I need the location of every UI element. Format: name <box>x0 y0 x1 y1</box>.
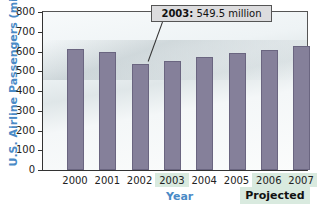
y-tick-label: 600 <box>9 47 35 57</box>
y-tick <box>38 91 43 92</box>
x-tick-label: 2003 <box>157 175 187 186</box>
bar-2002 <box>132 64 149 170</box>
projected-label: Projected <box>240 187 310 204</box>
y-tick <box>38 111 43 112</box>
y-tick <box>38 71 43 72</box>
bar-2005 <box>229 53 246 170</box>
bar-2007 <box>293 46 310 170</box>
y-tick-label: 100 <box>9 145 35 155</box>
y-tick-label: 400 <box>9 86 35 96</box>
y-tick <box>38 12 43 13</box>
y-tick <box>38 52 43 53</box>
x-tick-label: 2001 <box>92 175 122 186</box>
y-tick-label: 0 <box>9 165 35 175</box>
bar-2003 <box>164 61 181 170</box>
x-tick-label: 2002 <box>125 175 155 186</box>
x-tick-label: 2005 <box>222 175 252 186</box>
y-tick <box>38 150 43 151</box>
y-tick-label: 700 <box>9 27 35 37</box>
x-axis-title: Year <box>166 190 193 203</box>
y-tick-label: 200 <box>9 126 35 136</box>
annotation-callout-2003: 2003: 549.5 million <box>151 5 272 22</box>
bar-2006 <box>261 50 278 170</box>
y-tick-label: 500 <box>9 66 35 76</box>
bar-2001 <box>99 52 116 171</box>
y-tick <box>38 170 43 171</box>
y-tick <box>38 32 43 33</box>
plot-area: 0100200300400500600700800 <box>42 11 308 171</box>
x-tick-label: 2006 <box>254 175 284 186</box>
x-tick-label: 2004 <box>189 175 219 186</box>
callout-value: 549.5 million <box>193 8 261 19</box>
y-tick <box>38 131 43 132</box>
bar-2004 <box>196 57 213 170</box>
x-tick-label: 2000 <box>60 175 90 186</box>
bar-2000 <box>67 49 84 170</box>
callout-year: 2003: <box>161 8 193 19</box>
y-tick-label: 300 <box>9 106 35 116</box>
y-tick-label: 800 <box>9 7 35 17</box>
x-tick-label: 2007 <box>286 175 316 186</box>
